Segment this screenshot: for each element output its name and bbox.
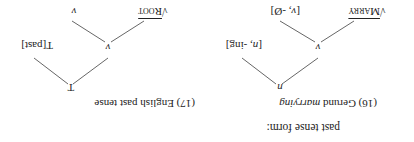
tree16-root-marry: √Marry: [348, 6, 386, 18]
tree17-branch-right: [34, 58, 68, 84]
tree17-v-node: v: [106, 42, 111, 54]
cat-label: n: [253, 40, 259, 52]
tree17-v-branch-right: [72, 21, 105, 42]
tree17-v-affix-node: v: [72, 6, 77, 18]
tree16-root-node: n: [277, 82, 283, 94]
root-symbol: √: [380, 6, 386, 18]
exponent-label: , -Ø]: [271, 6, 292, 18]
tree17-root-node-root: √Root: [138, 6, 168, 18]
root-name: Root: [138, 6, 162, 18]
tree16-branch-left: [282, 58, 318, 84]
tree16-v-branch-left: [321, 21, 354, 42]
tree17-tpast-node: T[past]: [21, 40, 53, 52]
exponent-label: , -ing]: [226, 40, 253, 52]
tree16-v-affix-node: [v, -Ø]: [271, 6, 300, 18]
tree-lines: [0, 0, 414, 142]
example-number: (17): [177, 98, 195, 110]
tree16-v-node: v: [316, 42, 321, 54]
tree16-branch-right: [242, 58, 276, 84]
tree17-v-branch-left: [111, 21, 144, 42]
tree17-root-node: T: [68, 82, 75, 94]
tree17-branch-left: [73, 58, 108, 84]
example-17-caption: (17) English past tense: [94, 98, 195, 110]
example-title: English past tense: [94, 98, 173, 110]
root-symbol: √: [162, 6, 168, 18]
cat-label: v: [291, 6, 296, 18]
rotated-page: past tense form: (16) Gerund marrying n …: [0, 0, 414, 142]
tree16-n-affix-node: [n, -ing]: [226, 40, 262, 52]
tree16-v-branch-right: [280, 21, 315, 42]
root-name: Marry: [348, 6, 380, 18]
